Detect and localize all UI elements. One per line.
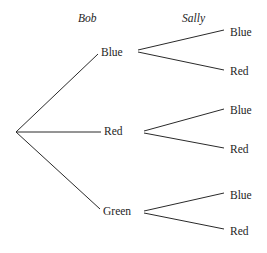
- node-bob-blue: Blue: [101, 47, 123, 59]
- column-header-bob: Bob: [78, 13, 97, 25]
- branch-green-to-blue: [144, 193, 224, 211]
- tree-diagram: Bob Sally Blue Red Green Blue Red Blue R…: [0, 0, 267, 253]
- column-header-sally: Sally: [182, 13, 205, 25]
- leaf-green-red: Red: [230, 226, 249, 238]
- leaf-blue-blue: Blue: [230, 27, 252, 39]
- leaf-green-blue: Blue: [230, 190, 252, 202]
- branch-root-to-green: [16, 132, 100, 209]
- branch-red-to-blue: [144, 109, 224, 131]
- node-bob-green: Green: [103, 206, 131, 218]
- branch-red-to-red: [144, 133, 224, 148]
- leaf-red-red: Red: [230, 144, 249, 156]
- leaf-red-blue: Blue: [230, 105, 252, 117]
- branch-blue-to-blue: [138, 30, 224, 50]
- leaf-blue-red: Red: [230, 66, 249, 78]
- branch-green-to-red: [144, 213, 224, 229]
- node-bob-red: Red: [104, 126, 123, 138]
- branch-blue-to-red: [138, 52, 224, 70]
- tree-branch-lines: [0, 0, 267, 253]
- branch-root-to-blue: [16, 54, 98, 132]
